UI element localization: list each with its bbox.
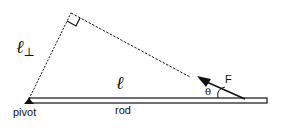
theta-label: θ xyxy=(205,86,211,97)
l-label: ℓ xyxy=(116,72,124,94)
pivot-label: pivot xyxy=(13,106,36,118)
rod-label: rod xyxy=(115,104,131,116)
right-angle-marker xyxy=(67,18,80,26)
lever-arm-line xyxy=(29,13,71,99)
l-perp-label: ℓ⊥ xyxy=(16,36,35,59)
theta-arc xyxy=(218,87,225,98)
torque-diagram xyxy=(0,0,281,129)
line-of-action xyxy=(71,13,190,77)
rod xyxy=(29,98,267,103)
force-label: F xyxy=(225,73,232,85)
